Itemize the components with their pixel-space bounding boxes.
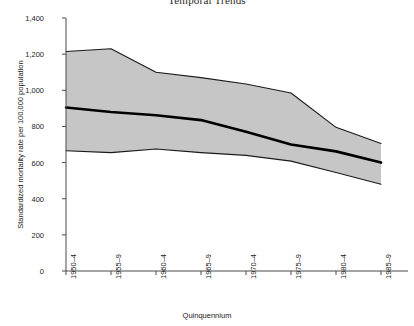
- y-axis-tick-label: 1,200: [25, 50, 44, 59]
- x-axis-tick-label: 1970–4: [249, 254, 258, 279]
- y-axis-tick-label: 800: [31, 122, 44, 131]
- y-axis-tick-label: 0: [40, 267, 44, 276]
- y-axis-tick-label: 200: [31, 230, 44, 239]
- x-axis-tick-label: 1980–4: [339, 254, 348, 279]
- uncertainty-band: [66, 49, 381, 185]
- y-axis-tick-label: 400: [31, 194, 44, 203]
- y-axis-tick-label: 600: [31, 158, 44, 167]
- y-axis-tick-label: 1,400: [25, 14, 44, 23]
- x-axis-tick-label: 1955–9: [114, 254, 123, 279]
- y-axis-tick-labels: 02004006008001,0001,2001,400: [0, 0, 44, 326]
- chart-title: Temporal Trends: [0, 0, 414, 6]
- x-axis-title: Quinquennium: [0, 311, 414, 320]
- x-axis-tick-label: 1960–4: [159, 254, 168, 279]
- y-axis-tick-label: 1,000: [25, 86, 44, 95]
- chart-figure: Temporal Trends Standardized mortality r…: [0, 0, 414, 326]
- x-axis-tick-label: 1950–4: [69, 254, 78, 279]
- x-axis-tick-label: 1985–9: [384, 254, 393, 279]
- x-axis-tick-label: 1965–9: [204, 254, 213, 279]
- x-axis-tick-label: 1975–9: [294, 254, 303, 279]
